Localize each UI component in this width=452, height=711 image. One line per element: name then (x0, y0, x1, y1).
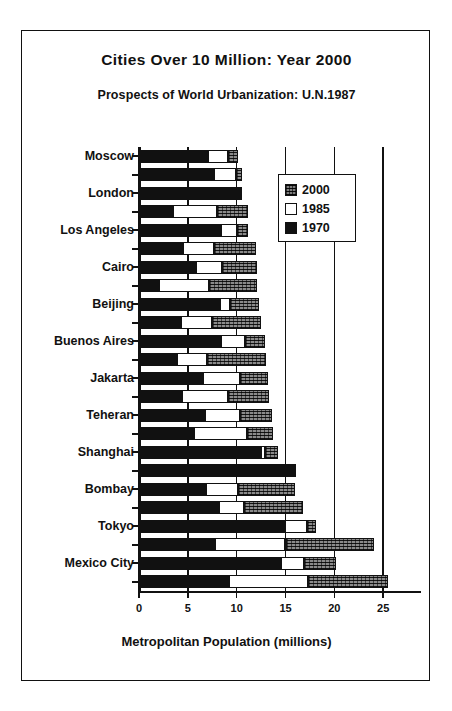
bar-segment-1970 (139, 520, 285, 533)
chart-page: Cities Over 10 Million: Year 2000 Prospe… (0, 0, 452, 711)
bar-segment-1970 (139, 446, 261, 459)
bar-segment-1970 (139, 390, 182, 403)
bar-row (139, 298, 391, 311)
bar-segment-2000 (209, 279, 257, 292)
chart-title: Cities Over 10 Million: Year 2000 (22, 51, 431, 69)
bar-segment-2000 (244, 501, 303, 514)
bar-segment-1970 (139, 335, 221, 348)
bar-segment-2000 (228, 390, 269, 403)
x-tick-label-15: 15 (279, 602, 291, 614)
bar-row (139, 538, 391, 551)
bar-row (139, 316, 391, 329)
bar-segment-1985 (219, 501, 244, 514)
y-axis-label-teheran: Teheran (86, 408, 134, 422)
x-tick-label-10: 10 (231, 602, 243, 614)
bar-segment-1985 (281, 557, 304, 570)
bar-row (139, 501, 391, 514)
bar-segment-1985 (215, 538, 285, 551)
y-axis-label-jakarta: Jakarta (90, 371, 134, 385)
y-axis-line (139, 147, 141, 591)
x-tick-5 (187, 592, 189, 598)
chart-subtitle: Prospects of World Urbanization: U.N.198… (22, 88, 431, 102)
bar-segment-1985 (194, 427, 248, 440)
x-tick-label-25: 25 (377, 602, 389, 614)
x-tick-15 (285, 592, 287, 598)
bar-row (139, 446, 391, 459)
bar-segment-1985 (203, 372, 239, 385)
bar-row (139, 150, 391, 163)
bar-segment-2000 (236, 168, 242, 181)
legend-swatch-1985 (285, 203, 297, 215)
bar-segment-1970 (139, 427, 194, 440)
y-axis-label-mexico-city: Mexico City (65, 556, 134, 570)
bar-row (139, 335, 391, 348)
bar-row (139, 390, 391, 403)
bar-row (139, 353, 391, 366)
bar-row (139, 261, 391, 274)
bar-segment-2000 (212, 316, 261, 329)
bar-segment-2000 (265, 446, 278, 459)
bar-segment-1985 (182, 390, 228, 403)
bar-segment-2000 (247, 427, 272, 440)
x-tick-10 (236, 592, 238, 598)
bar-segment-2000 (238, 483, 296, 496)
bar-row (139, 575, 391, 588)
bar-segment-1970 (139, 501, 219, 514)
bar-segment-1970 (139, 353, 177, 366)
bar-segment-2000 (230, 298, 259, 311)
bar-segment-1985 (221, 335, 245, 348)
bar-row (139, 372, 391, 385)
chart-legend: 2000 1985 1970 (278, 174, 356, 242)
y-axis-label-shanghai: Shanghai (78, 445, 134, 459)
y-axis-label-cairo: Cairo (102, 260, 134, 274)
bar-segment-1970 (139, 261, 196, 274)
bar-segment-2000 (286, 538, 375, 551)
bar-segment-1970 (139, 464, 296, 477)
x-tick-label-20: 20 (328, 602, 340, 614)
bar-segment-1970 (139, 409, 205, 422)
x-tick-label-0: 0 (136, 602, 142, 614)
legend-label-1970: 1970 (302, 221, 330, 235)
legend-item-1970: 1970 (285, 218, 350, 237)
bar-segment-1970 (139, 205, 173, 218)
bar-segment-2000 (240, 372, 268, 385)
y-axis-label-bombay: Bombay (85, 482, 134, 496)
bar-segment-1985 (208, 150, 228, 163)
x-tick-20 (334, 592, 336, 598)
legend-swatch-1970 (285, 222, 297, 234)
y-axis-label-tokyo: Tokyo (98, 519, 134, 533)
bar-row (139, 483, 391, 496)
x-tick-25 (382, 592, 384, 598)
bar-segment-1970 (139, 538, 215, 551)
bar-segment-2000 (214, 242, 256, 255)
bar-segment-1985 (181, 316, 212, 329)
legend-swatch-2000 (285, 184, 297, 196)
bar-segment-1985 (205, 409, 239, 422)
bar-segment-1970 (139, 279, 159, 292)
legend-item-1985: 1985 (285, 199, 350, 218)
bar-row (139, 464, 391, 477)
y-axis-label-buenos-aires: Buenos Aires (54, 334, 134, 348)
bar-segment-1985 (214, 168, 235, 181)
bar-segment-2000 (245, 335, 265, 348)
bar-segment-2000 (217, 205, 248, 218)
x-tick-label-5: 5 (185, 602, 191, 614)
bar-segment-1985 (177, 353, 207, 366)
bar-segment-2000 (307, 520, 316, 533)
bar-segment-1985 (183, 242, 214, 255)
x-axis-line (138, 591, 421, 593)
bar-segment-1985 (159, 279, 210, 292)
figure-frame: Cities Over 10 Million: Year 2000 Prospe… (21, 30, 430, 681)
bar-segment-1970 (139, 557, 281, 570)
y-axis-label-los-angeles: Los Angeles (60, 223, 134, 237)
bar-row (139, 409, 391, 422)
bar-segment-1970 (139, 150, 208, 163)
legend-item-2000: 2000 (285, 180, 350, 199)
bar-segment-2000 (222, 261, 257, 274)
bar-segment-1970 (139, 298, 220, 311)
bar-segment-1985 (221, 224, 237, 237)
x-tick-0 (138, 592, 140, 598)
bar-segment-2000 (304, 557, 336, 570)
x-axis-title: Metropolitan Population (millions) (22, 634, 431, 649)
bar-segment-1985 (229, 575, 308, 588)
